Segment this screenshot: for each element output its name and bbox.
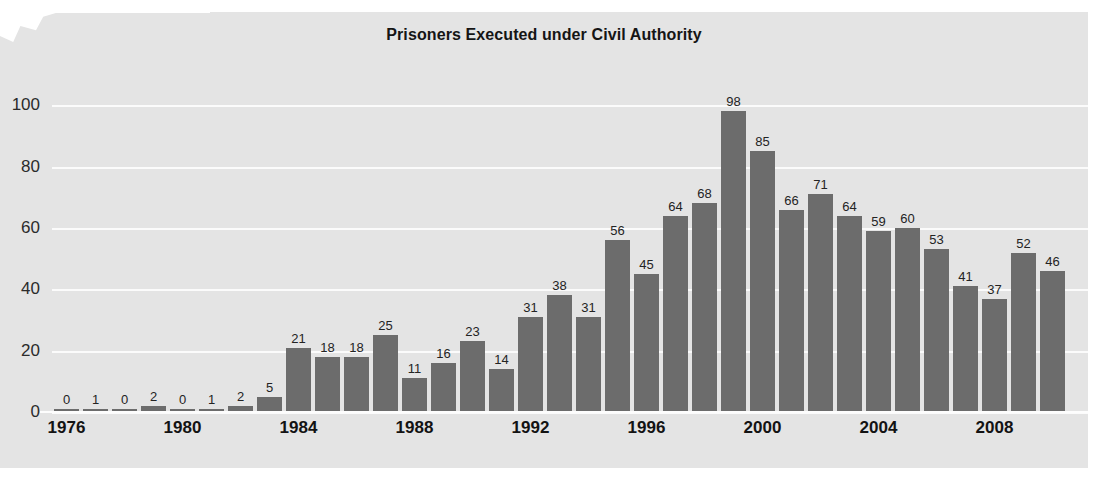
bar-slot[interactable]: 18 (342, 90, 371, 412)
bar[interactable] (779, 210, 804, 412)
bar-value-label: 68 (690, 187, 719, 200)
bar-slot[interactable]: 98 (719, 90, 748, 412)
bar[interactable] (982, 299, 1007, 412)
bar-slot[interactable]: 23 (458, 90, 487, 412)
bar-value-label: 0 (110, 393, 139, 406)
bar-value-label: 37 (980, 283, 1009, 296)
bar[interactable] (257, 397, 282, 412)
bar-slot[interactable]: 2 (139, 90, 168, 412)
bar[interactable] (1040, 271, 1065, 412)
x-axis-tick-2008: 2008 (960, 418, 1030, 438)
bar[interactable] (518, 317, 543, 412)
bar[interactable] (489, 369, 514, 412)
bar[interactable] (953, 286, 978, 412)
bar-slot[interactable]: 5 (255, 90, 284, 412)
bar[interactable] (373, 335, 398, 412)
bar-slot[interactable]: 31 (516, 90, 545, 412)
bar-slot[interactable]: 31 (574, 90, 603, 412)
bar[interactable] (837, 216, 862, 412)
bar-value-label: 5 (255, 381, 284, 394)
bar[interactable] (576, 317, 601, 412)
bar-value-label: 1 (81, 393, 110, 406)
bar-value-label: 85 (748, 135, 777, 148)
bar[interactable] (750, 151, 775, 412)
bar[interactable] (634, 274, 659, 412)
bar-slot[interactable]: 37 (980, 90, 1009, 412)
bar-slot[interactable]: 2 (226, 90, 255, 412)
bar-slot[interactable]: 1 (197, 90, 226, 412)
bar-slot[interactable]: 52 (1009, 90, 1038, 412)
bar-slot[interactable]: 0 (110, 90, 139, 412)
bar[interactable] (460, 341, 485, 412)
y-axis-tick-100: 100 (12, 95, 40, 115)
bar-slot[interactable]: 64 (835, 90, 864, 412)
bar-value-label: 18 (313, 341, 342, 354)
bar[interactable] (286, 348, 311, 412)
bar[interactable] (431, 363, 456, 412)
bar-value-label: 71 (806, 178, 835, 191)
bar[interactable] (866, 231, 891, 412)
bar-slot[interactable]: 45 (632, 90, 661, 412)
bar[interactable] (605, 240, 630, 412)
bar-value-label: 64 (661, 200, 690, 213)
bar[interactable] (315, 357, 340, 412)
bar-slot[interactable]: 64 (661, 90, 690, 412)
bar[interactable] (547, 295, 572, 412)
bar-slot[interactable]: 38 (545, 90, 574, 412)
bar-value-label: 64 (835, 200, 864, 213)
x-axis-tick-1988: 1988 (380, 418, 450, 438)
bar-slot[interactable]: 14 (487, 90, 516, 412)
bar-slot[interactable]: 71 (806, 90, 835, 412)
bar-slot[interactable]: 85 (748, 90, 777, 412)
bar-value-label: 31 (574, 301, 603, 314)
bar[interactable] (402, 378, 427, 412)
chart-screenshot: Prisoners Executed under Civil Authority… (0, 0, 1120, 487)
y-axis: 020406080100 (0, 90, 46, 430)
bar-slot[interactable]: 1 (81, 90, 110, 412)
bar[interactable] (692, 203, 717, 412)
bar-slot[interactable]: 46 (1038, 90, 1067, 412)
bar-value-label: 60 (893, 212, 922, 225)
bar-value-label: 46 (1038, 255, 1067, 268)
bar-slot[interactable]: 0 (168, 90, 197, 412)
bar[interactable] (1011, 253, 1036, 412)
bar[interactable] (721, 111, 746, 412)
bar-value-label: 52 (1009, 237, 1038, 250)
bar-slot[interactable]: 21 (284, 90, 313, 412)
bar-slot[interactable]: 60 (893, 90, 922, 412)
bar[interactable] (924, 249, 949, 412)
bar-slot[interactable]: 56 (603, 90, 632, 412)
x-axis-tick-1980: 1980 (148, 418, 218, 438)
y-axis-tick-20: 20 (21, 341, 40, 361)
bar-value-label: 18 (342, 341, 371, 354)
bar-slot[interactable]: 59 (864, 90, 893, 412)
scan-top-margin-artifact (0, 0, 210, 13)
bar-value-label: 45 (632, 258, 661, 271)
x-axis-tick-1984: 1984 (264, 418, 334, 438)
bar-value-label: 16 (429, 347, 458, 360)
bar-value-label: 25 (371, 319, 400, 332)
bar-value-label: 31 (516, 301, 545, 314)
bar-value-label: 38 (545, 279, 574, 292)
bar-slot[interactable]: 25 (371, 90, 400, 412)
bar-slot[interactable]: 16 (429, 90, 458, 412)
bar-value-label: 98 (719, 95, 748, 108)
bar-slot[interactable]: 0 (52, 90, 81, 412)
bar[interactable] (808, 194, 833, 412)
bar[interactable] (663, 216, 688, 412)
bar-value-label: 53 (922, 233, 951, 246)
page-title: Prisoners Executed under Civil Authority (0, 26, 1088, 44)
bar-value-label: 23 (458, 325, 487, 338)
x-axis-tick-1992: 1992 (496, 418, 566, 438)
bar[interactable] (344, 357, 369, 412)
bar-value-label: 0 (52, 393, 81, 406)
bar-value-label: 14 (487, 353, 516, 366)
bar-slot[interactable]: 66 (777, 90, 806, 412)
bar-slot[interactable]: 18 (313, 90, 342, 412)
bar-slot[interactable]: 41 (951, 90, 980, 412)
bar-slot[interactable]: 53 (922, 90, 951, 412)
bar-slot[interactable]: 11 (400, 90, 429, 412)
bar-slot[interactable]: 68 (690, 90, 719, 412)
x-axis-tick-1976: 1976 (32, 418, 102, 438)
bar[interactable] (895, 228, 920, 412)
